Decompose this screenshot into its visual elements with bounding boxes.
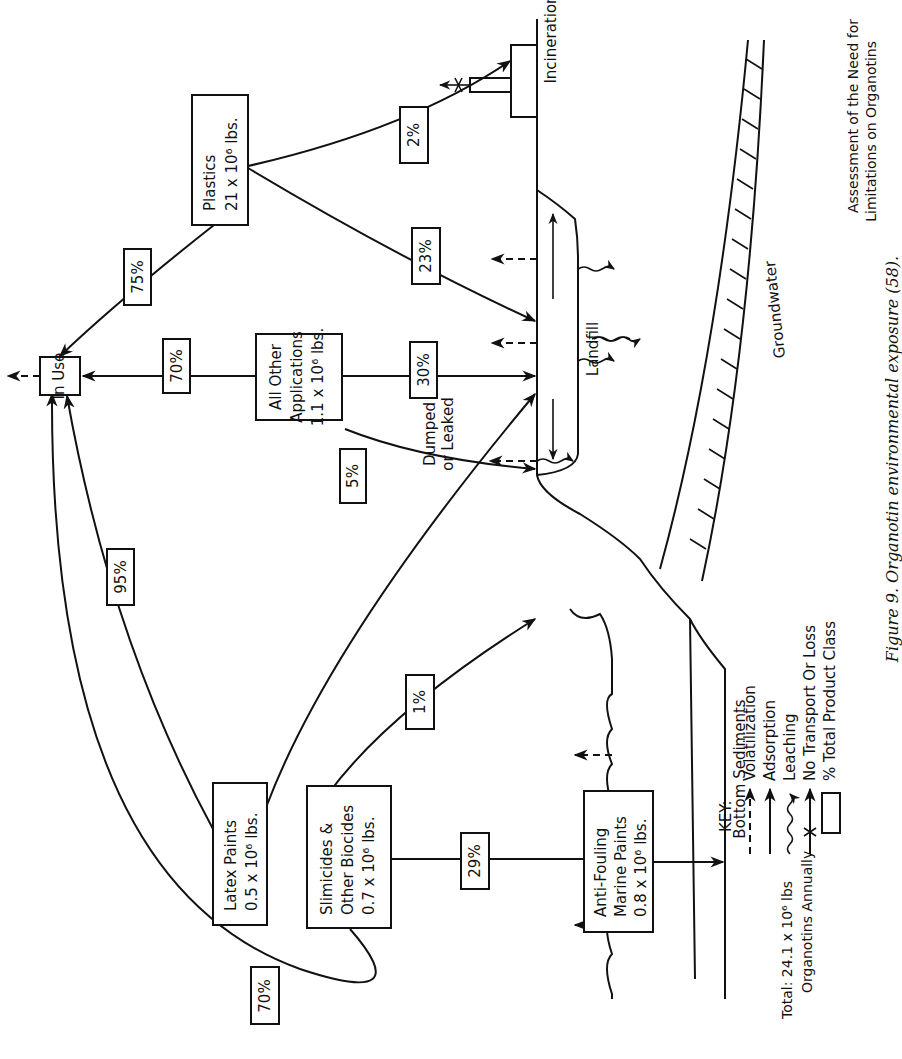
in-use-label: In Use xyxy=(50,353,68,400)
svg-text:75%: 75% xyxy=(129,260,147,293)
dumped-label-1: Dumped xyxy=(421,402,439,466)
groundwater-label: Groundwater xyxy=(761,259,789,359)
wavy-arrow-icon xyxy=(788,794,793,854)
node-latex-paints: Latex Paints 0.5 x 10⁶ lbs. xyxy=(213,783,267,925)
legend-item-percent-box: % Total Product Class xyxy=(821,621,840,833)
pct-plastics-landfill: 23% xyxy=(412,228,440,284)
svg-text:70%: 70% xyxy=(168,349,186,382)
svg-text:Leaching: Leaching xyxy=(781,714,799,781)
all-other-line2: Applications xyxy=(288,331,306,423)
svg-text:No Transport Or Loss: No Transport Or Loss xyxy=(801,625,819,781)
svg-text:Adsorption: Adsorption xyxy=(761,700,779,781)
svg-text:95%: 95% xyxy=(112,560,130,593)
svg-text:Volatilization: Volatilization xyxy=(741,685,759,781)
node-anti-fouling: Anti-Fouling Marine Paints 0.8 x 10⁶ lbs… xyxy=(584,791,653,932)
organotin-flow-diagram: Assessment of the Need for Limitations o… xyxy=(0,0,902,1059)
legend-item-adsorption: Adsorption xyxy=(761,700,779,854)
pct-all-other-in-use: 70% xyxy=(163,339,190,393)
landfill-losses: Dumped or Leaked xyxy=(421,259,640,471)
pct-plastics-in-use: 75% xyxy=(124,249,151,305)
slimicides-line3: 0.7 x 10⁶ lbs. xyxy=(360,817,378,915)
svg-text:1%: 1% xyxy=(411,690,429,714)
plastics-line1: Plastics xyxy=(201,154,219,211)
svg-text:2%: 2% xyxy=(405,123,423,147)
antifouling-line2: Marine Paints xyxy=(612,816,630,917)
legend-item-no-transport: No Transport Or Loss xyxy=(801,625,819,854)
header-line2: Limitations on Organotins xyxy=(863,41,879,222)
report-header: Assessment of the Need for Limitations o… xyxy=(845,19,879,222)
plastics-line2: 21 x 10⁶ lbs. xyxy=(223,117,241,211)
total-line1: Total: 24.1 x 10⁶ lbs xyxy=(779,881,795,1020)
slimicides-line1: Slimicides & xyxy=(318,823,336,915)
node-slimicides: Slimicides & Other Biocides 0.7 x 10⁶ lb… xyxy=(307,786,391,928)
svg-text:30%: 30% xyxy=(415,353,433,386)
antifouling-line3: 0.8 x 10⁶ lbs. xyxy=(632,819,650,917)
antifouling-line1: Anti-Fouling xyxy=(592,828,610,917)
header-line1: Assessment of the Need for xyxy=(845,19,861,213)
landfill-label: Landfill xyxy=(584,322,602,376)
latex-line1: Latex Paints xyxy=(222,820,240,911)
pct-slimicides-dumped: 1% xyxy=(406,675,434,729)
pct-all-other-landfill: 30% xyxy=(410,342,437,398)
pct-latex-in-use: 95% xyxy=(107,549,134,605)
pct-slimicides-water: 29% xyxy=(461,833,489,889)
total-line2: Organotins Annually xyxy=(799,851,815,993)
svg-text:% Total Product Class: % Total Product Class xyxy=(821,621,839,781)
incineration-label: Incineration xyxy=(542,0,560,84)
slimicides-line2: Other Biocides xyxy=(339,805,357,915)
incinerator-shape xyxy=(511,45,537,117)
landfill-outline xyxy=(537,190,578,475)
dumped-label-2: or Leaked xyxy=(439,397,457,471)
incinerator-stack xyxy=(470,78,511,92)
svg-text:29%: 29% xyxy=(466,844,484,877)
total-annotation: Total: 24.1 x 10⁶ lbs Organotins Annuall… xyxy=(779,851,815,1020)
svg-text:23%: 23% xyxy=(417,239,435,272)
legend-item-leaching: Leaching xyxy=(781,714,799,854)
groundwater-band: Groundwater xyxy=(660,40,789,581)
legend-key-label: KEY: xyxy=(717,800,735,832)
box-icon xyxy=(822,793,840,833)
all-other-line3: 1.1 x 10⁶ lbs. xyxy=(309,328,327,426)
node-in-use: In Use xyxy=(40,353,80,400)
node-all-other: All Other Applications 1.1 x 10⁶ lbs. xyxy=(256,328,342,426)
latex-line2: 0.5 x 10⁶ lbs. xyxy=(243,813,261,911)
all-other-line1: All Other xyxy=(267,343,285,410)
pct-slimicides-in-use: 70% xyxy=(251,967,279,1024)
node-plastics: Plastics 21 x 10⁶ lbs. xyxy=(192,95,248,225)
pct-latex-dumped: 5% xyxy=(340,449,366,503)
svg-text:70%: 70% xyxy=(256,979,274,1012)
svg-text:5%: 5% xyxy=(344,464,362,488)
figure-caption: Figure 9. Organotin environmental exposu… xyxy=(883,256,902,663)
pct-plastics-incineration: 2% xyxy=(400,107,428,163)
